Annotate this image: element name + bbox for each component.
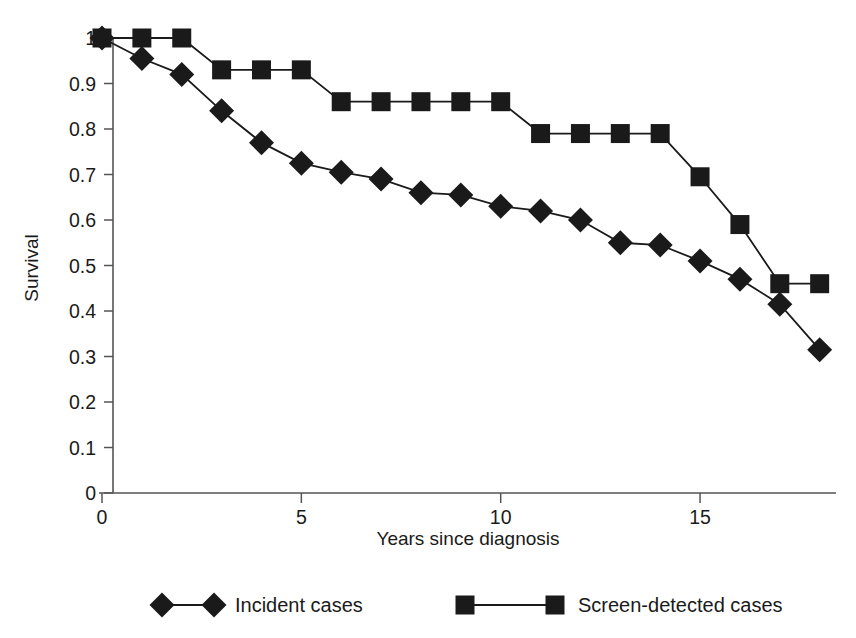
legend-item-incident[interactable]: Incident cases — [150, 593, 363, 618]
data-point-square — [611, 124, 630, 143]
series-line — [102, 38, 820, 284]
data-point-square — [292, 60, 311, 79]
data-point-diamond — [202, 593, 227, 618]
y-tick-label: 0.8 — [69, 118, 96, 140]
y-tick-label: 0.2 — [69, 391, 96, 413]
x-tick-label: 0 — [97, 506, 108, 528]
x-axis-title: Years since diagnosis — [376, 528, 559, 549]
chart-canvas: 00.10.20.30.40.50.60.70.80.91 051015 Yea… — [0, 0, 856, 638]
data-point-square — [651, 124, 670, 143]
data-point-diamond — [528, 198, 553, 223]
y-tick-label: 0.5 — [69, 255, 96, 277]
data-point-diamond — [448, 182, 473, 207]
data-point-diamond — [488, 194, 513, 219]
data-point-diamond — [568, 208, 593, 233]
y-tick-label: 0.3 — [69, 346, 96, 368]
data-point-square — [491, 92, 510, 111]
y-tick-label: 0.7 — [69, 164, 96, 186]
data-point-square — [252, 60, 271, 79]
data-point-diamond — [648, 233, 673, 258]
survival-chart-figure: 00.10.20.30.40.50.60.70.80.91 051015 Yea… — [0, 0, 856, 638]
data-point-diamond — [727, 267, 752, 292]
y-tick-label: 0.9 — [69, 73, 96, 95]
data-point-square — [212, 60, 231, 79]
y-tick-label: 0.4 — [69, 300, 96, 322]
data-point-diamond — [369, 167, 394, 192]
data-point-square — [770, 274, 789, 293]
data-point-diamond — [289, 151, 314, 176]
data-point-square — [691, 167, 710, 186]
data-point-diamond — [329, 160, 354, 185]
x-tick-label: 10 — [490, 506, 512, 528]
series-incident — [90, 26, 833, 363]
data-point-square — [332, 92, 351, 111]
data-point-diamond — [688, 248, 713, 273]
y-tick-label: 0 — [85, 482, 96, 504]
data-point-square — [172, 29, 191, 48]
x-axis-ticks: 051015 — [97, 493, 711, 528]
series-screen-detected — [93, 29, 830, 294]
data-point-square — [372, 92, 391, 111]
legend-label: Screen-detected cases — [578, 594, 783, 616]
data-point-square — [730, 215, 749, 234]
data-point-square — [456, 596, 475, 615]
data-point-square — [451, 92, 470, 111]
data-point-diamond — [249, 130, 274, 155]
data-point-diamond — [608, 230, 633, 255]
data-point-square — [531, 124, 550, 143]
data-point-square — [132, 29, 151, 48]
data-point-square — [546, 596, 565, 615]
y-axis-title: Survival — [21, 234, 42, 302]
data-series-group — [90, 26, 833, 363]
data-point-square — [571, 124, 590, 143]
data-point-diamond — [408, 180, 433, 205]
x-tick-label: 5 — [296, 506, 307, 528]
legend-label: Incident cases — [235, 594, 363, 616]
legend-item-screen-detected[interactable]: Screen-detected cases — [456, 594, 783, 616]
chart-legend: Incident casesScreen-detected cases — [150, 593, 783, 618]
y-tick-label: 0.6 — [69, 209, 96, 231]
x-tick-label: 15 — [689, 506, 711, 528]
data-point-square — [93, 29, 112, 48]
data-point-diamond — [129, 46, 154, 71]
data-point-square — [411, 92, 430, 111]
y-axis-ticks: 00.10.20.30.40.50.60.70.80.91 — [69, 27, 113, 504]
data-point-diamond — [150, 593, 175, 618]
y-tick-label: 0.1 — [69, 437, 96, 459]
data-point-square — [810, 274, 829, 293]
